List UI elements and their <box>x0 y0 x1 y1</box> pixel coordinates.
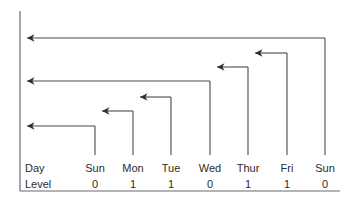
level-value-2: 1 <box>168 178 174 190</box>
diagram-canvas: DayLevelSun0Mon1Tue1Wed0Thur1Fri1Sun0 <box>0 0 348 203</box>
day-label-2: Tue <box>162 162 181 174</box>
label-group: DayLevelSun0Mon1Tue1Wed0Thur1Fri1Sun0 <box>25 162 335 190</box>
row-label-day: Day <box>25 162 45 174</box>
arrow-sun7-to-axis <box>27 38 325 155</box>
level-value-5: 1 <box>284 178 290 190</box>
day-label-1: Mon <box>122 162 143 174</box>
arrow-thur-to-wed <box>217 67 248 155</box>
day-label-5: Fri <box>281 162 294 174</box>
arrow-sun1-to-axis <box>27 126 95 155</box>
arrow-wed-to-axis <box>27 81 210 155</box>
day-label-6: Sun <box>315 162 335 174</box>
arrow-fri-to-thur <box>255 53 287 155</box>
level-value-4: 1 <box>245 178 251 190</box>
level-value-1: 1 <box>130 178 136 190</box>
day-label-4: Thur <box>237 162 260 174</box>
level-value-6: 0 <box>322 178 328 190</box>
level-value-0: 0 <box>92 178 98 190</box>
level-value-3: 0 <box>207 178 213 190</box>
recursion-trace-figure: DayLevelSun0Mon1Tue1Wed0Thur1Fri1Sun0 <box>0 0 348 203</box>
day-label-0: Sun <box>85 162 105 174</box>
arrow-tue-to-mon <box>140 97 171 155</box>
day-label-3: Wed <box>199 162 221 174</box>
row-label-level: Level <box>25 178 51 190</box>
arrow-mon-to-sun <box>102 111 133 155</box>
arrow-group <box>27 38 325 155</box>
